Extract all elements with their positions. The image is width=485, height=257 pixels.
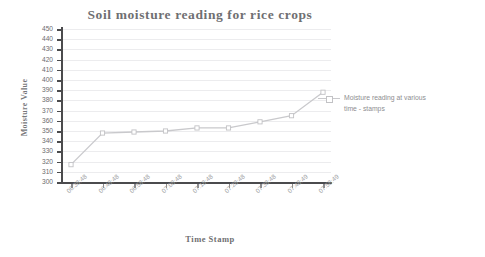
data-point-marker xyxy=(69,163,73,167)
data-series-line xyxy=(0,0,485,257)
data-point-marker xyxy=(132,130,136,134)
legend-label-line1: Moisture reading at various xyxy=(344,94,426,101)
legend-label: Moisture reading at various time - stamp… xyxy=(344,92,426,114)
data-point-marker xyxy=(195,126,199,130)
data-point-marker xyxy=(100,131,104,135)
data-point-marker xyxy=(163,129,167,133)
data-point-marker xyxy=(226,126,230,130)
chart-container: Soil moisture reading for rice crops Moi… xyxy=(0,0,485,257)
data-point-marker xyxy=(289,114,293,118)
chart-legend: Moisture reading at various time - stamp… xyxy=(318,92,478,114)
data-point-marker xyxy=(258,120,262,124)
legend-key-icon xyxy=(318,94,340,104)
legend-label-line2: time - stamps xyxy=(344,105,385,112)
